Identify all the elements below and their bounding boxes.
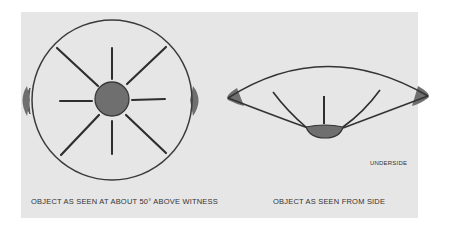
side-view-figure	[227, 66, 429, 138]
underside-label: UNDERSIDE	[370, 160, 407, 166]
underside-dome	[306, 125, 343, 138]
side-view-caption: OBJECT AS SEEN FROM SIDE	[273, 197, 385, 206]
top-view-caption: OBJECT AS SEEN AT ABOUT 50° ABOVE WITNES…	[31, 197, 218, 206]
top-view-figure	[23, 20, 199, 180]
central-hub	[95, 82, 129, 116]
